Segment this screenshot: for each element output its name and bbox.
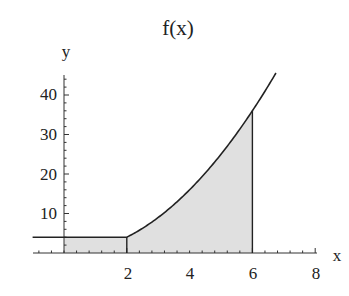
- y-tick-label: 40: [40, 85, 57, 104]
- x-axis-label: x: [333, 246, 342, 265]
- y-tick-label: 30: [40, 125, 57, 144]
- x-tick-label: 2: [124, 264, 133, 283]
- x-tick-label: 4: [186, 264, 195, 283]
- shaded-area: [64, 111, 252, 253]
- y-axis-label: y: [62, 42, 71, 61]
- x-tick-label: 8: [312, 264, 321, 283]
- y-tick-label: 10: [40, 204, 57, 223]
- chart-title: f(x): [162, 16, 193, 40]
- y-axis: [64, 75, 69, 253]
- function-plot: f(x) y x 2 4 6 8 10 20 30 40: [0, 0, 349, 296]
- y-tick-label: 20: [40, 165, 57, 184]
- x-tick-label: 6: [249, 264, 258, 283]
